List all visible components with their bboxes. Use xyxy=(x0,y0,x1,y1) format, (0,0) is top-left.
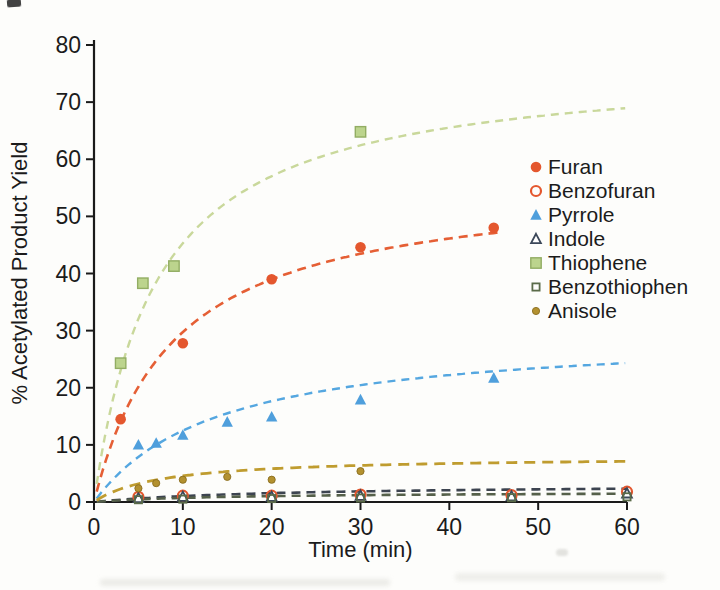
y-tick-label: 60 xyxy=(55,146,81,172)
legend-item-thiophene: Thiophene xyxy=(531,251,647,274)
x-tick-label: 50 xyxy=(525,514,551,540)
scan-smudge xyxy=(100,579,390,586)
scan-artifact-mark xyxy=(7,0,22,7)
data-point-anisole xyxy=(153,480,160,487)
x-tick-label: 10 xyxy=(170,514,196,540)
legend-marker-benzothiophen xyxy=(532,283,539,290)
legend-item-pyrrole: Pyrrole xyxy=(530,203,614,226)
data-point-furan xyxy=(178,338,189,349)
legend-item-benzofuran: Benzofuran xyxy=(531,179,655,202)
fit-line-pyrrole xyxy=(97,363,626,498)
legend-marker-thiophene xyxy=(531,258,541,268)
x-axis-title: Time (min) xyxy=(308,537,412,562)
legend-item-benzothiophen: Benzothiophen xyxy=(532,275,688,298)
x-tick-label: 60 xyxy=(614,514,640,540)
data-point-pyrrole xyxy=(222,416,233,427)
legend-label: Benzofuran xyxy=(548,179,655,202)
chart-svg: 010203040506070800102030405060Time (min)… xyxy=(0,0,720,590)
data-point-furan xyxy=(266,274,277,285)
y-tick-label: 40 xyxy=(55,261,81,287)
x-tick-label: 40 xyxy=(437,514,463,540)
y-tick-label: 70 xyxy=(55,89,81,115)
legend-marker-anisole xyxy=(532,307,539,314)
legend-marker-benzofuran xyxy=(531,186,541,196)
chart-figure: 010203040506070800102030405060Time (min)… xyxy=(0,0,720,590)
data-point-pyrrole xyxy=(266,411,277,422)
legend-marker-furan xyxy=(531,162,542,173)
y-tick-label: 20 xyxy=(55,375,81,401)
legend-marker-pyrrole xyxy=(530,209,541,220)
data-point-anisole xyxy=(357,468,364,475)
legend-item-furan: Furan xyxy=(531,155,603,178)
fit-line-furan xyxy=(97,232,503,492)
scan-smudge xyxy=(556,549,568,556)
y-tick-label: 0 xyxy=(68,489,81,515)
data-point-pyrrole xyxy=(488,372,499,383)
data-point-thiophene xyxy=(115,358,125,368)
scan-smudge xyxy=(455,573,665,581)
x-tick-label: 0 xyxy=(88,514,101,540)
legend-label: Benzothiophen xyxy=(548,275,688,298)
data-point-thiophene xyxy=(138,278,148,288)
data-point-anisole xyxy=(224,473,231,480)
fit-line-thiophene xyxy=(97,108,626,484)
y-tick-label: 30 xyxy=(55,318,81,344)
data-point-furan xyxy=(355,242,366,253)
data-point-pyrrole xyxy=(355,394,366,405)
legend-label: Thiophene xyxy=(548,251,647,274)
y-tick-label: 50 xyxy=(55,203,81,229)
legend-item-indole: Indole xyxy=(531,227,605,250)
y-axis-title: % Acetylated Product Yield xyxy=(7,142,32,405)
data-point-furan xyxy=(115,414,126,425)
y-tick-label: 10 xyxy=(55,432,81,458)
x-tick-label: 20 xyxy=(259,514,285,540)
y-tick-label: 80 xyxy=(55,32,81,58)
data-point-anisole xyxy=(135,485,142,492)
data-point-pyrrole xyxy=(177,429,188,440)
data-point-furan xyxy=(488,223,499,234)
data-point-anisole xyxy=(179,476,186,483)
legend-item-anisole: Anisole xyxy=(532,299,616,322)
legend-label: Anisole xyxy=(548,299,617,322)
data-point-anisole xyxy=(268,476,275,483)
legend-label: Furan xyxy=(548,155,603,178)
legend-label: Indole xyxy=(548,227,605,250)
legend-marker-indole xyxy=(531,234,541,243)
legend-label: Pyrrole xyxy=(548,203,615,226)
data-point-pyrrole xyxy=(133,439,144,450)
data-point-thiophene xyxy=(169,261,179,271)
data-point-thiophene xyxy=(355,127,365,137)
